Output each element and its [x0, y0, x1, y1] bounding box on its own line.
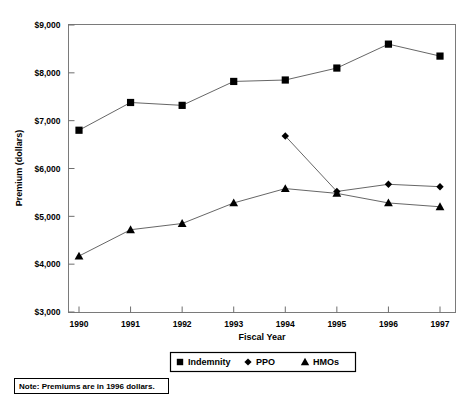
data-point-marker [282, 76, 289, 83]
data-point-marker [436, 52, 443, 59]
x-tick-label: 1996 [379, 319, 398, 329]
data-point-marker [75, 252, 84, 260]
note-text: Note: Premiums are in 1996 dollars. [19, 382, 155, 391]
series-hmos [75, 184, 445, 259]
chart-container: $3,000$4,000$5,000$6,000$7,000$8,000$9,0… [0, 0, 473, 399]
x-axis-title: Fiscal Year [239, 332, 286, 342]
data-point-marker [385, 181, 392, 188]
data-point-marker [127, 99, 134, 106]
data-point-marker [179, 102, 186, 109]
y-tick-label: $8,000 [35, 68, 61, 78]
x-tick-label: 1990 [70, 319, 89, 329]
data-point-marker [75, 127, 82, 134]
data-series-group [75, 41, 445, 260]
y-tick-label: $7,000 [35, 116, 61, 126]
y-tick-label: $6,000 [35, 164, 61, 174]
x-tick-label: 1991 [121, 319, 140, 329]
data-point-marker [281, 184, 290, 192]
x-tick-label: 1995 [327, 319, 346, 329]
legend-label-hmos[interactable]: HMOs [313, 357, 339, 367]
plot-frame [69, 25, 456, 313]
series-ppo [282, 132, 444, 195]
note-annotation: Note: Premiums are in 1996 dollars. [15, 379, 169, 394]
data-point-marker [436, 183, 443, 190]
legend-items: IndemnityPPOHMOs [177, 357, 339, 367]
chart-legend: IndemnityPPOHMOs [171, 353, 356, 372]
legend-marker-indemnity [177, 359, 183, 365]
premium-line-chart: $3,000$4,000$5,000$6,000$7,000$8,000$9,0… [0, 0, 473, 399]
y-tick-label: $5,000 [35, 212, 61, 222]
data-point-marker [385, 41, 392, 48]
legend-label-ppo[interactable]: PPO [256, 357, 275, 367]
x-tick-label: 1993 [224, 319, 243, 329]
series-line [79, 189, 440, 256]
data-point-marker [230, 78, 237, 85]
legend-label-indemnity[interactable]: Indemnity [188, 357, 231, 367]
series-line [79, 44, 440, 130]
series-line [285, 136, 440, 191]
data-point-marker [333, 64, 340, 71]
x-tick-label: 1992 [173, 319, 192, 329]
x-tick-label: 1994 [276, 319, 295, 329]
data-point-marker [178, 219, 187, 227]
y-axis-title: Premium (dollars) [14, 130, 24, 207]
y-tick-label: $4,000 [35, 259, 61, 269]
y-tick-label: $3,000 [35, 307, 61, 317]
y-tick-label: $9,000 [35, 20, 61, 30]
x-tick-label: 1997 [431, 319, 450, 329]
x-axis: 19901991199219931994199519961997 [70, 307, 450, 329]
series-indemnity [75, 41, 443, 134]
